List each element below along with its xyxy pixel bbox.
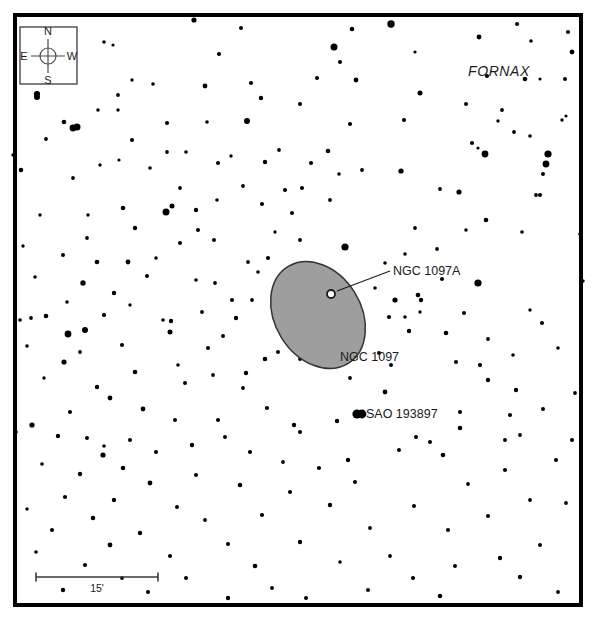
star-dot: [112, 498, 116, 502]
star-dot: [165, 121, 169, 125]
star-dot: [335, 419, 339, 423]
star-dot: [148, 166, 152, 170]
star-dot: [121, 466, 126, 471]
star-dot: [183, 381, 187, 385]
star-dot: [265, 406, 269, 410]
star-dot: [529, 39, 533, 43]
star-dot: [556, 590, 560, 594]
star-dot: [500, 108, 504, 112]
star-dot: [78, 472, 82, 476]
star-dot: [478, 363, 482, 367]
star-dot: [259, 96, 263, 100]
star-dot: [217, 52, 221, 56]
star-dot: [416, 293, 421, 298]
star-dot: [353, 480, 357, 484]
star-dot: [191, 17, 196, 22]
sao193897-star-dot: [352, 409, 361, 418]
star-dot: [541, 172, 545, 176]
star-dot: [108, 396, 113, 401]
star-dot: [348, 122, 352, 126]
star-dot: [283, 188, 287, 192]
star-dot: [403, 315, 407, 319]
star-dot: [223, 435, 227, 439]
star-dot: [544, 150, 551, 157]
sky-map-canvas: NGC 1097 NGC 1097A SAO 193897 FORNAX N S…: [0, 0, 601, 630]
star-dot: [538, 543, 542, 547]
star-dot: [216, 161, 220, 165]
star-dot: [238, 483, 243, 488]
star-dot: [474, 279, 481, 286]
star-dot: [168, 554, 172, 558]
star-dot: [98, 163, 101, 166]
star-dot: [428, 440, 432, 444]
star-dot: [496, 119, 499, 122]
star-dot: [486, 514, 490, 518]
star-dot: [184, 150, 188, 154]
star-dot: [403, 252, 407, 256]
star-dot: [453, 564, 457, 568]
star-dot: [528, 134, 532, 138]
label-sao193897: SAO 193897: [366, 407, 438, 421]
star-dot: [281, 460, 285, 464]
star-dot: [95, 385, 99, 389]
star-dot: [68, 410, 72, 414]
star-dot: [564, 501, 568, 505]
star-dot: [543, 161, 550, 168]
star-dot: [65, 300, 69, 304]
star-dot: [165, 150, 169, 154]
star-dot: [229, 154, 232, 157]
star-dot: [397, 448, 401, 452]
star-dot: [85, 236, 89, 240]
star-dot: [145, 274, 149, 278]
star-dot: [560, 118, 563, 121]
star-dot: [226, 596, 230, 600]
star-dot: [194, 208, 198, 212]
star-dot: [85, 436, 89, 440]
star-dot: [111, 43, 114, 46]
star-dot: [419, 298, 423, 302]
star-dot: [541, 407, 545, 411]
star-dot: [62, 120, 67, 125]
star-dot: [173, 418, 177, 422]
star-dot: [566, 30, 570, 34]
star-dot: [44, 314, 49, 319]
star-dot: [564, 114, 567, 117]
star-dot: [19, 168, 24, 173]
star-dot: [458, 410, 462, 414]
star-dot: [29, 316, 33, 320]
star-dot: [130, 138, 134, 142]
star-dot: [34, 94, 40, 100]
star-dot: [354, 78, 359, 83]
star-dot: [21, 244, 24, 247]
star-dot: [418, 310, 421, 313]
star-dot: [556, 346, 560, 350]
star-dot: [288, 490, 292, 494]
star-dot: [248, 450, 252, 454]
star-dot: [373, 286, 377, 290]
star-dot: [61, 588, 65, 592]
star-dot: [464, 102, 468, 106]
star-dot: [508, 413, 512, 417]
star-dot: [263, 160, 267, 164]
star-dot: [203, 518, 207, 522]
star-dot: [61, 253, 65, 257]
star-dot: [130, 78, 133, 81]
star-dot: [249, 81, 253, 85]
star-dot: [82, 327, 88, 333]
star-dot: [40, 462, 44, 466]
star-dot: [441, 453, 446, 458]
star-dot: [138, 531, 142, 535]
star-dot: [196, 228, 200, 232]
star-dot: [438, 187, 442, 191]
star-dot: [573, 391, 577, 395]
star-dot: [205, 120, 209, 124]
star-dot: [61, 359, 66, 364]
star-dot: [78, 350, 82, 354]
star-dot: [33, 275, 37, 279]
star-dot: [260, 202, 264, 206]
star-dot: [402, 118, 406, 122]
star-dot: [464, 228, 468, 232]
star-dot: [194, 473, 198, 477]
star-dot: [203, 84, 208, 89]
star-dot: [273, 230, 276, 233]
